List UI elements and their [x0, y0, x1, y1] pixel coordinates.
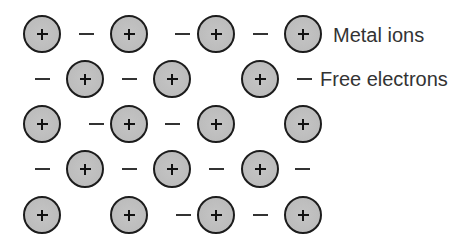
metal-ion-icon: [110, 15, 148, 53]
electron-minus-icon: [35, 168, 50, 170]
metal-ion-icon: [241, 150, 279, 188]
plus-icon: [41, 210, 43, 221]
metal-ion-icon: [197, 15, 235, 53]
metal-ion-icon: [110, 196, 148, 234]
electron-minus-icon: [297, 78, 312, 80]
plus-icon: [128, 119, 130, 130]
plus-icon: [171, 164, 173, 175]
plus-icon: [84, 74, 86, 85]
electron-minus-icon: [253, 214, 268, 216]
electron-minus-icon: [35, 78, 50, 80]
metallic-bonding-diagram: Metal ions Free electrons: [0, 0, 470, 244]
electron-minus-icon: [122, 78, 137, 80]
metal-ion-icon: [153, 150, 191, 188]
electron-minus-icon: [176, 214, 191, 216]
plus-icon: [215, 29, 217, 40]
electron-minus-icon: [209, 168, 224, 170]
metal-ion-icon: [284, 196, 322, 234]
metal-ion-icon: [197, 196, 235, 234]
plus-icon: [128, 29, 130, 40]
plus-icon: [215, 119, 217, 130]
plus-icon: [259, 74, 261, 85]
metal-ion-icon: [241, 60, 279, 98]
metal-ion-icon: [197, 105, 235, 143]
electron-minus-icon: [79, 33, 94, 35]
plus-icon: [302, 210, 304, 221]
plus-icon: [302, 29, 304, 40]
plus-icon: [41, 29, 43, 40]
metal-ion-icon: [23, 15, 61, 53]
metal-ion-icon: [153, 60, 191, 98]
plus-icon: [41, 119, 43, 130]
plus-icon: [302, 119, 304, 130]
metal-ion-icon: [110, 105, 148, 143]
electron-minus-icon: [122, 168, 137, 170]
plus-icon: [128, 210, 130, 221]
legend-metal-ions-label: Metal ions: [333, 25, 424, 45]
metal-ion-icon: [284, 15, 322, 53]
electron-minus-icon: [89, 123, 104, 125]
metal-ion-icon: [23, 196, 61, 234]
metal-ion-icon: [66, 150, 104, 188]
electron-minus-icon: [175, 33, 190, 35]
metal-ion-icon: [66, 60, 104, 98]
plus-icon: [215, 210, 217, 221]
electron-minus-icon: [165, 123, 180, 125]
plus-icon: [259, 164, 261, 175]
electron-minus-icon: [253, 33, 268, 35]
plus-icon: [84, 164, 86, 175]
legend-free-electrons-label: Free electrons: [320, 69, 448, 89]
metal-ion-icon: [284, 105, 322, 143]
electron-minus-icon: [295, 168, 310, 170]
metal-ion-icon: [23, 105, 61, 143]
plus-icon: [171, 74, 173, 85]
